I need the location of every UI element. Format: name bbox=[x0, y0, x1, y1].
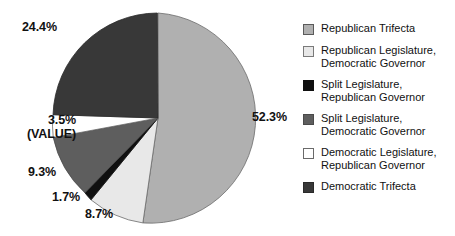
pie-slice-democratic-trifecta[interactable] bbox=[53, 13, 158, 118]
legend-item-split-legislature-democratic-governor[interactable]: Split Legislature, Democratic Governor bbox=[303, 112, 455, 137]
legend-label: Democratic Trifecta bbox=[321, 180, 416, 193]
legend-item-democratic-trifecta[interactable]: Democratic Trifecta bbox=[303, 180, 455, 193]
pie-slice-republican-trifecta[interactable] bbox=[143, 13, 256, 223]
slice-value-text: 3.5% bbox=[48, 113, 76, 127]
pie-chart-figure: 52.3% 24.4% 3.5% (VALUE) 9.3% 1.7% 8.7% … bbox=[0, 0, 455, 236]
slice-value-annotation: (VALUE) bbox=[14, 127, 76, 141]
pie-plot-area: 52.3% 24.4% 3.5% (VALUE) 9.3% 1.7% 8.7% bbox=[0, 0, 300, 236]
slice-value-democratic-legislature-republican-governor: 3.5% (VALUE) bbox=[14, 113, 76, 141]
legend-item-democratic-legislature-republican-governor[interactable]: Democratic Legislature, Republican Gover… bbox=[303, 146, 455, 171]
legend-label: Split Legislature, Democratic Governor bbox=[321, 112, 426, 137]
slice-value-democratic-trifecta: 24.4% bbox=[22, 20, 57, 34]
legend-label: Split Legislature, Republican Governor bbox=[321, 78, 425, 103]
legend-swatch-icon bbox=[303, 182, 314, 193]
legend-label: Republican Trifecta bbox=[321, 22, 415, 35]
legend-swatch-icon bbox=[303, 46, 314, 57]
legend-swatch-icon bbox=[303, 148, 314, 159]
legend-item-republican-legislature-democratic-governor[interactable]: Republican Legislature, Democratic Gover… bbox=[303, 44, 455, 69]
legend-item-republican-trifecta[interactable]: Republican Trifecta bbox=[303, 22, 455, 35]
legend-swatch-icon bbox=[303, 114, 314, 125]
legend-label: Democratic Legislature, Republican Gover… bbox=[321, 146, 437, 171]
legend-item-split-legislature-republican-governor[interactable]: Split Legislature, Republican Governor bbox=[303, 78, 455, 103]
legend-swatch-icon bbox=[303, 24, 314, 35]
chart-legend: Republican Trifecta Republican Legislatu… bbox=[303, 22, 455, 202]
slice-value-split-legislature-democratic-governor: 9.3% bbox=[28, 165, 56, 179]
legend-label: Republican Legislature, Democratic Gover… bbox=[321, 44, 436, 69]
slice-value-split-legislature-republican-governor: 1.7% bbox=[52, 190, 80, 204]
legend-swatch-icon bbox=[303, 80, 314, 91]
slice-value-republican-trifecta: 52.3% bbox=[252, 110, 287, 124]
slice-value-republican-legislature-democratic-governor: 8.7% bbox=[85, 207, 113, 221]
